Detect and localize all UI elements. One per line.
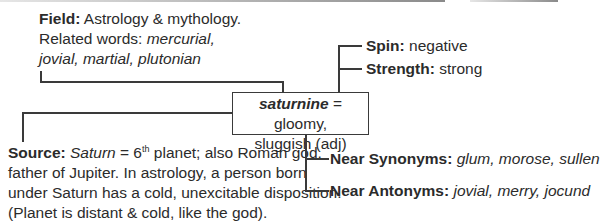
headword-box: saturnine = gloomy, sluggish (adj) [232,92,369,135]
top-divider-right [470,0,558,2]
synonyms-connector-h [305,158,329,160]
field-block: Field: Astrology & mythology. Related wo… [39,9,241,69]
source-sup: th [142,144,150,154]
source-line2: father of Jupiter. In astrology, a perso… [8,163,341,183]
field-text: Astrology & mythology. [80,10,241,27]
antonyms-values: jovial, merry, jocund [449,182,590,199]
headword: saturnine [259,95,329,112]
source-block: Source: Saturn = 6th planet; also Roman … [8,143,341,223]
field-label: Field: [39,10,80,27]
antonyms-text: Near Antonyms: jovial, merry, jocund [330,181,590,201]
strength-value: strong [435,60,482,77]
source-connector-h [22,112,233,114]
synonyms-values: glum, morose, sullen [452,150,599,167]
strength-connector-h [338,68,362,70]
antonyms-connector-h [305,190,329,192]
field-connector-h [40,81,284,83]
equals-sign: = [329,95,342,112]
source-line1: planet; also Roman god, [150,144,322,161]
source-saturn: Saturn [70,144,116,161]
antonyms-label: Near Antonyms: [330,182,449,199]
strength-label: Strength: [366,60,435,77]
spin-text: Spin: negative [366,36,468,56]
spin-label: Spin: [366,37,405,54]
nyms-connector-v [305,135,307,191]
source-eq: = 6 [116,144,142,161]
synonyms-text: Near Synonyms: glum, morose, sullen [330,149,600,169]
related-words-1: mercurial, [147,30,215,47]
related-words-2: jovial, martial, plutonian [39,50,201,67]
source-connector-v [22,112,24,142]
spin-connector-h [338,45,362,47]
spin-value: negative [405,37,468,54]
source-line4: (Planet is distant & cold, like the god)… [8,203,341,223]
strength-text: Strength: strong [366,59,482,79]
source-label: Source: [8,144,66,161]
source-line3: under Saturn has a cold, unexcitable dis… [8,183,341,203]
synonyms-label: Near Synonyms: [330,150,452,167]
definition-1: gloomy, [274,115,327,132]
top-divider-left [0,0,445,2]
related-label: Related words: [39,30,147,47]
